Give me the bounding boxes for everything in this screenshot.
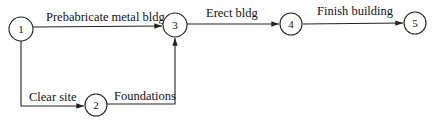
edge-3-4: Erect bldg [187, 6, 279, 24]
edge-1-3: Prebabricate metal bldg [33, 10, 165, 27]
edge-label-erect-bldg: Erect bldg [206, 6, 258, 20]
edge-label-clear-site: Clear site [29, 90, 77, 104]
edge-4-5: Finish building [303, 4, 403, 24]
node-1: 1 [9, 17, 33, 41]
node-4: 4 [280, 13, 302, 35]
node-2: 2 [85, 94, 107, 116]
node-5-label: 5 [412, 17, 418, 29]
network-diagram: Prebabricate metal bldg Clear site Found… [0, 0, 432, 124]
edge-label-finish-building: Finish building [317, 4, 394, 18]
node-4-label: 4 [288, 18, 294, 30]
edge-label-foundations: Foundations [114, 89, 176, 103]
node-1-label: 1 [18, 23, 24, 35]
edge-1-2: Clear site [21, 41, 84, 106]
node-5: 5 [404, 12, 426, 34]
node-3: 3 [163, 13, 187, 37]
node-3-label: 3 [172, 19, 178, 31]
node-2-label: 2 [93, 99, 99, 111]
edge-2-3: Foundations [107, 38, 176, 104]
edge-label-prefabricate: Prebabricate metal bldg [46, 10, 165, 24]
